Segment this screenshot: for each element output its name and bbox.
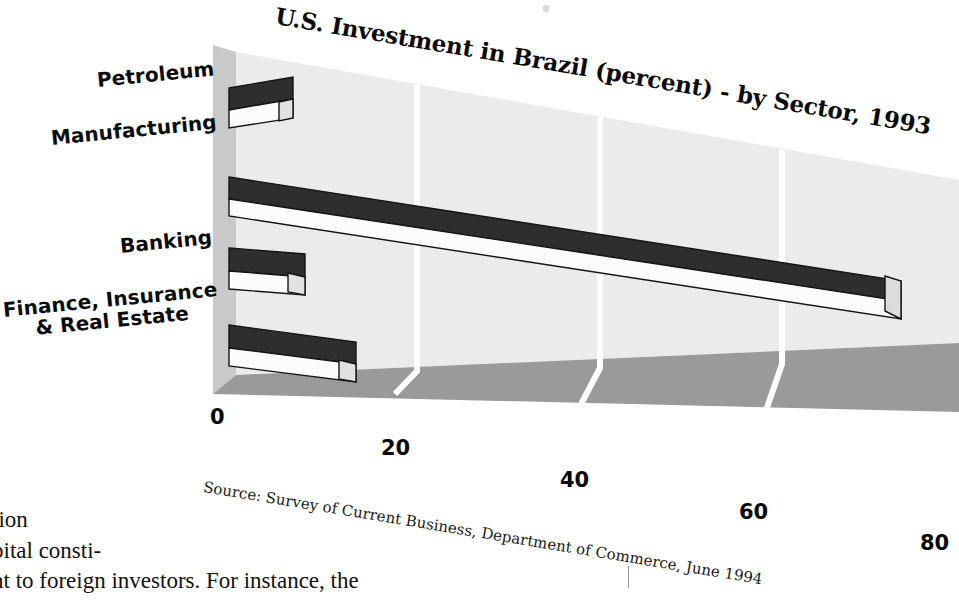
- x-tick-20: 20: [381, 436, 410, 460]
- x-tick-0: 0: [210, 405, 225, 429]
- x-tick-80: 80: [920, 531, 949, 555]
- x-tick-60: 60: [739, 500, 768, 524]
- body-line-1: tion: [0, 505, 359, 536]
- bar-banking: [229, 248, 305, 295]
- scan-speck: [543, 5, 549, 12]
- x-tick-40: 40: [560, 468, 589, 492]
- page-root: U.S. Investment in Brazil (percent) - by…: [0, 0, 959, 605]
- body-line-3: nt to foreign investors. For instance, t…: [0, 566, 359, 597]
- body-line-2: pital consti-: [0, 536, 359, 567]
- text-caret: [628, 566, 629, 588]
- chart-figure: U.S. Investment in Brazil (percent) - by…: [0, 0, 959, 580]
- page-body-text: tion pital consti- nt to foreign investo…: [0, 505, 359, 597]
